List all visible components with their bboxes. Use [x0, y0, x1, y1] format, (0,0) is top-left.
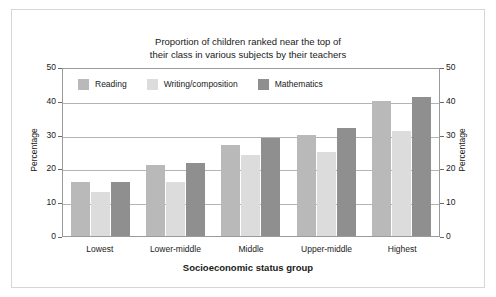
- chart-title: Proportion of children ranked near the t…: [0, 36, 496, 61]
- bar: [241, 155, 260, 236]
- bar: [317, 152, 336, 237]
- x-axis-tick-label: Lower-middle: [138, 244, 214, 254]
- y-axis-tick-mark: [440, 102, 444, 103]
- bar: [261, 138, 280, 236]
- bar: [91, 192, 110, 236]
- bar-group: [71, 69, 131, 236]
- bar: [337, 128, 356, 236]
- y-axis-tick-mark: [58, 237, 62, 238]
- y-axis-tick-label: 0: [34, 231, 56, 241]
- y-axis-tick-label: 10: [34, 197, 56, 207]
- y-axis-tick-mark: [440, 203, 444, 204]
- bar-groups: [63, 69, 439, 236]
- y-axis-left-title: Percentage: [29, 110, 39, 190]
- y-axis-tick-label: 40: [446, 96, 468, 106]
- x-axis-tick-label: Lowest: [62, 244, 138, 254]
- x-axis-tick-label: Highest: [364, 244, 440, 254]
- bar: [146, 165, 165, 236]
- bar: [71, 182, 90, 236]
- y-axis-tick-label: 10: [446, 197, 468, 207]
- bar-group: [146, 69, 206, 236]
- bar: [392, 131, 411, 236]
- bar: [166, 182, 185, 236]
- bar: [297, 135, 316, 236]
- y-axis-tick-mark: [440, 237, 444, 238]
- y-axis-tick-mark: [58, 136, 62, 137]
- bar: [111, 182, 130, 236]
- y-axis-tick-mark: [440, 68, 444, 69]
- y-axis-tick-label: 50: [446, 62, 468, 72]
- y-axis-tick-mark: [440, 169, 444, 170]
- chart-page: Proportion of children ranked near the t…: [0, 0, 496, 297]
- bar: [412, 97, 431, 236]
- bar-group: [371, 69, 431, 236]
- y-axis-tick-label: 40: [34, 96, 56, 106]
- y-axis-tick-mark: [58, 102, 62, 103]
- bar: [221, 145, 240, 236]
- y-axis-right-title: Percentage: [457, 110, 467, 190]
- y-axis-tick-label: 0: [446, 231, 468, 241]
- y-axis-tick-mark: [58, 169, 62, 170]
- bar: [372, 101, 391, 236]
- plot-area: [62, 68, 440, 237]
- y-axis-tick-mark: [440, 136, 444, 137]
- y-axis-tick-label: 50: [34, 62, 56, 72]
- x-axis-tick-label: Middle: [213, 244, 289, 254]
- y-axis-tick-mark: [58, 203, 62, 204]
- x-axis-title: Socioeconomic status group: [0, 262, 496, 273]
- bar-group: [296, 69, 356, 236]
- bar-group: [221, 69, 281, 236]
- y-axis-tick-mark: [58, 68, 62, 69]
- bar: [186, 163, 205, 236]
- x-axis-tick-label: Upper-middle: [289, 244, 365, 254]
